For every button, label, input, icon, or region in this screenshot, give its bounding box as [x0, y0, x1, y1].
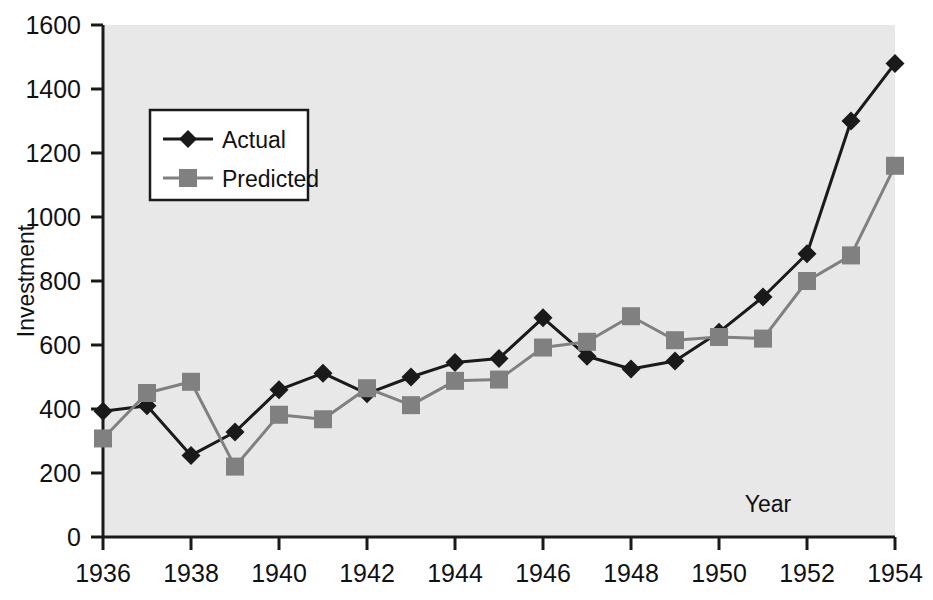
x-tick-label: 1944 — [427, 559, 483, 587]
data-point — [314, 410, 332, 428]
y-tick-label: 1400 — [25, 75, 81, 103]
plot-area — [103, 25, 895, 537]
x-tick-label: 1954 — [867, 559, 923, 587]
data-point — [490, 371, 508, 389]
chart-legend: Actual Predicted — [150, 110, 319, 200]
x-tick-label: 1938 — [163, 559, 219, 587]
legend-marker-predicted — [179, 169, 197, 187]
y-tick-label: 600 — [39, 331, 81, 359]
y-axis-title: Investment — [13, 224, 39, 337]
data-point — [226, 458, 244, 476]
data-point — [138, 384, 156, 402]
data-point — [798, 272, 816, 290]
y-tick-label: 0 — [67, 523, 81, 551]
y-tick-label: 1200 — [25, 139, 81, 167]
x-tick-label: 1936 — [75, 559, 131, 587]
data-point — [666, 331, 684, 349]
data-point — [182, 373, 200, 391]
x-tick-label: 1948 — [603, 559, 659, 587]
data-point — [710, 328, 728, 346]
y-tick-label: 800 — [39, 267, 81, 295]
data-point — [534, 339, 552, 357]
data-point — [402, 396, 420, 414]
x-tick-label: 1950 — [691, 559, 747, 587]
chart-canvas: 02004006008001000120014001600 1936193819… — [0, 0, 933, 600]
data-point — [622, 307, 640, 325]
x-tick-label: 1940 — [251, 559, 307, 587]
y-tick-label: 1600 — [25, 11, 81, 39]
data-point — [446, 372, 464, 390]
data-point — [578, 333, 596, 351]
x-tick-label: 1946 — [515, 559, 571, 587]
data-point — [270, 406, 288, 424]
y-tick-label: 400 — [39, 395, 81, 423]
legend-label-actual: Actual — [222, 127, 286, 153]
data-point — [358, 379, 376, 397]
data-point — [886, 157, 904, 175]
data-point — [842, 246, 860, 264]
legend-label-predicted: Predicted — [222, 166, 319, 192]
data-point — [94, 429, 112, 447]
x-tick-label: 1942 — [339, 559, 395, 587]
investment-line-chart: 02004006008001000120014001600 1936193819… — [0, 0, 933, 600]
x-tick-label: 1952 — [779, 559, 835, 587]
x-axis-title: Year — [745, 491, 792, 517]
y-tick-label: 200 — [39, 459, 81, 487]
data-point — [754, 330, 772, 348]
